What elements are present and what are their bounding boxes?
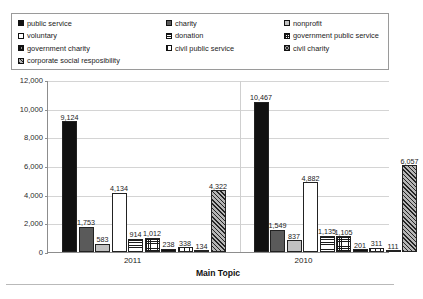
y-axis-tick-label: 0	[0, 249, 43, 257]
bar-slot: 4,322	[211, 81, 226, 252]
legend-swatch-checker-icon	[284, 45, 290, 51]
y-axis-tick-label: 8,000	[0, 134, 43, 142]
x-axis-category-labels: 20112010	[47, 256, 389, 265]
bar[interactable]: 111	[386, 250, 401, 252]
legend-swatch-hline-icon	[166, 33, 172, 39]
legend-swatch-vline-icon	[166, 45, 172, 51]
x-axis-category-label: 2011	[47, 256, 218, 265]
bar-value-label: 9,124	[61, 114, 79, 122]
legend-item[interactable]: voluntary	[18, 30, 166, 43]
bar-slot: 1,012	[145, 81, 160, 252]
bar-slot: 10,467	[254, 81, 269, 252]
bar-group-2010: 10,4671,5498374,8821,1351,1052013111116,…	[240, 81, 423, 252]
legend-item[interactable]: charity	[166, 17, 284, 30]
legend-item[interactable]: government public service	[284, 30, 396, 43]
bar[interactable]: 10,467	[254, 102, 269, 252]
legend-swatch-grid-icon	[284, 33, 290, 39]
legend-item[interactable]: civil charity	[284, 42, 396, 55]
legend-label: civil charity	[293, 44, 329, 53]
legend-label: public service	[27, 19, 72, 28]
bar-slot: 311	[369, 81, 384, 252]
legend-swatch-solid-black-icon	[18, 20, 24, 26]
legend-label: charity	[175, 19, 197, 28]
legend-grid: public servicecharitynonprofitvoluntaryd…	[18, 17, 384, 67]
bar-slot: 6,057	[402, 81, 417, 252]
y-axis-tick-label: 10,000	[0, 106, 43, 114]
bar-value-label: 238	[163, 241, 175, 249]
bar-value-label: 1,753	[77, 219, 95, 227]
bar[interactable]: 9,124	[62, 121, 77, 252]
bar-value-label: 1,105	[335, 229, 353, 237]
bar[interactable]: 338	[178, 247, 193, 252]
legend-item[interactable]: public service	[18, 17, 166, 30]
bar-value-label: 201	[354, 242, 366, 250]
bar-slot: 4,134	[112, 81, 127, 252]
bar-group-2011: 9,1241,7535834,1349141,0122383381344,322	[48, 81, 240, 252]
bar-slot: 111	[386, 81, 401, 252]
bar-value-label: 1,135	[318, 228, 336, 236]
bar[interactable]: 6,057	[402, 165, 417, 252]
bar[interactable]: 1,135	[320, 236, 335, 252]
bar-slot: 134	[194, 81, 209, 252]
bottom-rule	[6, 284, 394, 285]
bar-slot: 1,135	[320, 81, 335, 252]
y-tick-mark	[45, 253, 48, 254]
y-axis-tick-label: 2,000	[0, 220, 43, 228]
bar-value-label: 4,322	[209, 183, 227, 191]
bar[interactable]: 583	[95, 244, 110, 252]
legend-swatch-white-icon	[18, 33, 24, 39]
y-axis-tick-label: 12,000	[0, 77, 43, 85]
bar-slot: 238	[161, 81, 176, 252]
legend-label: corporate social resposibility	[27, 56, 120, 65]
legend-item[interactable]: donation	[166, 30, 284, 43]
bar[interactable]: 4,882	[303, 182, 318, 252]
bar-slot: 338	[178, 81, 193, 252]
bar[interactable]: 1,549	[270, 230, 285, 252]
bar-value-label: 4,882	[302, 175, 320, 183]
legend-label: nonprofit	[293, 19, 322, 28]
bar-slot: 837	[287, 81, 302, 252]
bar-value-label: 914	[130, 231, 142, 239]
bar-slot: 1,753	[79, 81, 94, 252]
legend-swatch-light-gray-icon	[284, 20, 290, 26]
bar-value-label: 111	[388, 243, 399, 251]
legend-label: government public service	[293, 31, 379, 40]
x-axis-title: Main Topic	[47, 268, 389, 278]
bar-slot: 583	[95, 81, 110, 252]
legend-swatch-diag-icon	[18, 58, 24, 64]
bar[interactable]: 1,753	[79, 227, 94, 252]
plot-area: 9,1241,7535834,1349141,0122383381344,322…	[47, 81, 389, 253]
bar-value-label: 134	[196, 243, 208, 251]
bar[interactable]: 238	[161, 249, 176, 252]
bar-slot: 1,549	[270, 81, 285, 252]
legend-swatch-dark-gray-icon	[166, 20, 172, 26]
bar-value-label: 1,012	[143, 230, 161, 238]
bar-groups: 9,1241,7535834,1349141,0122383381344,322…	[48, 81, 389, 252]
bar[interactable]: 914	[128, 239, 143, 252]
bar-slot: 914	[128, 81, 143, 252]
bar[interactable]: 311	[369, 248, 384, 252]
bar[interactable]: 134	[194, 250, 209, 252]
bar-value-label: 338	[179, 240, 191, 248]
legend-label: donation	[175, 31, 203, 40]
legend-item[interactable]: corporate social resposibility	[18, 55, 166, 68]
bar[interactable]: 1,012	[145, 238, 160, 253]
bar-slot: 201	[353, 81, 368, 252]
bar-slot: 9,124	[62, 81, 77, 252]
bar[interactable]: 1,105	[336, 236, 351, 252]
bar-value-label: 1,549	[269, 222, 287, 230]
legend-item[interactable]: government charity	[18, 42, 166, 55]
legend-item[interactable]: nonprofit	[284, 17, 396, 30]
y-axis-tick-label: 6,000	[0, 163, 43, 171]
bar-value-label: 4,134	[110, 185, 128, 193]
bar-slot: 1,105	[336, 81, 351, 252]
legend-swatch-dense-grid-icon	[18, 45, 24, 51]
bar[interactable]: 4,134	[112, 193, 127, 252]
bar[interactable]: 4,322	[211, 190, 226, 252]
bar[interactable]: 201	[353, 249, 368, 252]
bar[interactable]: 837	[287, 240, 302, 252]
bar-slot: 4,882	[303, 81, 318, 252]
legend-item[interactable]: civil public service	[166, 42, 284, 55]
bar-value-label: 837	[288, 233, 300, 241]
bar-value-label: 583	[97, 236, 109, 244]
